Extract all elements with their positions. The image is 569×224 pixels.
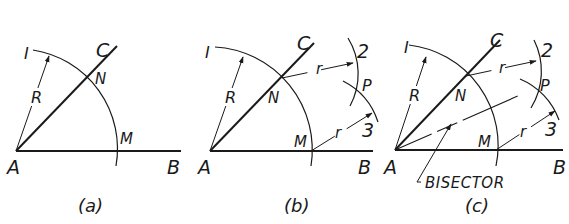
caption-b: (b) — [284, 195, 309, 216]
label-r-top: r — [499, 59, 506, 77]
label-b: B — [167, 156, 180, 178]
panel-c: R I r r BISECTOR C N M 2 P 3 A B (c) — [382, 29, 566, 216]
label-3: 3 — [545, 118, 557, 140]
label-c: C — [96, 39, 110, 61]
label-arc-1: I — [404, 38, 409, 57]
label-2: 2 — [541, 39, 553, 61]
panel-b: R I r r C N M 2 P 3 A B (b) — [196, 32, 378, 216]
label-m: M — [120, 130, 133, 148]
label-c: C — [297, 32, 311, 54]
label-m: M — [294, 133, 307, 151]
label-r-bottom: r — [520, 123, 527, 141]
label-a: A — [5, 156, 20, 178]
label-2: 2 — [357, 40, 369, 62]
label-p: P — [362, 76, 372, 95]
caption-c: (c) — [465, 195, 489, 216]
label-3: 3 — [362, 119, 374, 141]
arc-2 — [531, 40, 541, 108]
arc-1 — [33, 50, 117, 166]
caption-a: (a) — [78, 195, 103, 216]
label-r: R — [31, 88, 42, 107]
angle-bisection-diagram: R I C N M A B (a) R I r r C N M 2 P 3 A … — [0, 0, 569, 224]
label-n: N — [95, 70, 106, 88]
label-arc-1: I — [205, 43, 210, 62]
label-b: B — [553, 156, 566, 178]
label-r-top: r — [316, 60, 323, 78]
label-n: N — [455, 87, 466, 105]
label-r: R — [225, 88, 236, 107]
label-a: A — [196, 156, 211, 178]
label-bisector: BISECTOR — [425, 174, 505, 192]
label-n: N — [268, 89, 279, 107]
label-b: B — [358, 156, 371, 178]
label-a: A — [382, 156, 397, 178]
arc-3 — [343, 81, 378, 122]
label-r-bottom: r — [335, 124, 342, 142]
label-arc-1: I — [24, 44, 29, 63]
label-c: C — [490, 29, 504, 51]
label-m: M — [478, 133, 491, 151]
panel-a: R I C N M A B (a) — [5, 39, 181, 216]
label-p: P — [540, 76, 550, 95]
label-r: R — [409, 86, 420, 105]
